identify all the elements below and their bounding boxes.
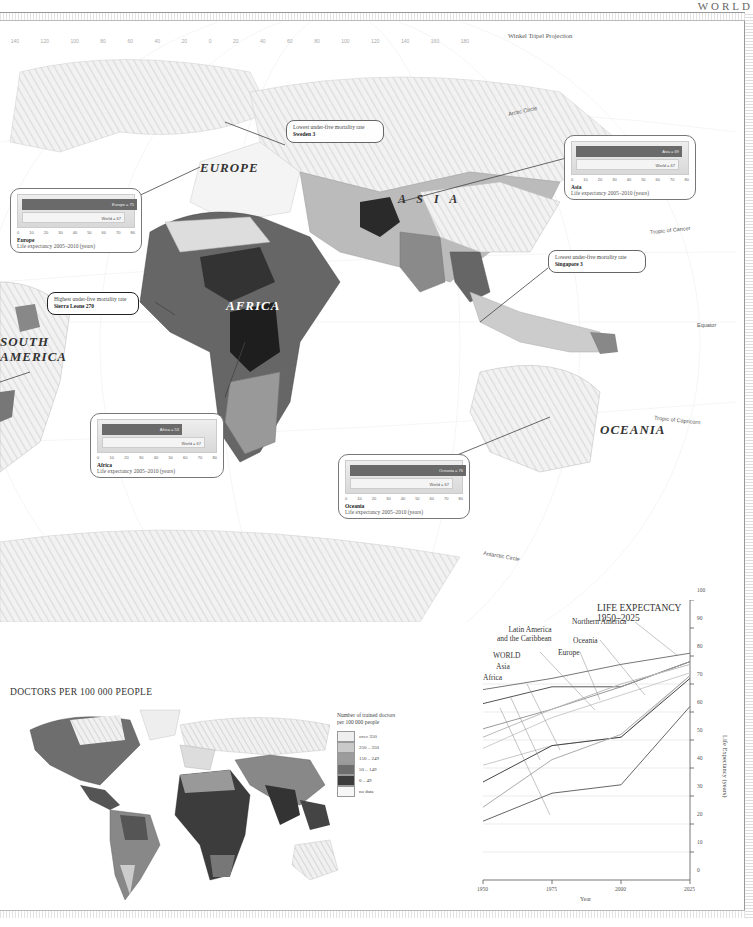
label-line: Latin America: [497, 625, 552, 634]
tick: 10: [110, 455, 114, 460]
y-tick: 80: [697, 632, 705, 660]
life-expectancy-box-oceania: Oceania = 76 World = 67 0102030405060708…: [338, 454, 470, 519]
region-subtitle: Life expectancy 2005–2010 (years): [17, 243, 135, 249]
bar-chart: Asia = 69 World = 67: [571, 141, 689, 175]
legend-label: no data: [359, 789, 374, 794]
world-bar: World = 67: [350, 478, 453, 489]
tick: 0: [17, 230, 19, 235]
lon-label: 120: [371, 38, 379, 44]
x-tick: 1950: [477, 886, 488, 892]
region-bar: Oceania = 76: [350, 465, 466, 476]
region-subtitle: Life expectancy 2005–2010 (years): [345, 509, 463, 515]
lon-label: 40: [260, 38, 266, 44]
life-expectancy-box-africa: Africa = 53 World = 67 01020304050607080…: [90, 413, 224, 478]
tick: 80: [213, 455, 217, 460]
callout-value: Sierra Leone 270: [54, 303, 94, 309]
tick: 30: [58, 230, 62, 235]
tick: 80: [131, 230, 135, 235]
world-bar: World = 67: [576, 159, 679, 170]
y-tick: 20: [697, 800, 705, 828]
lon-label: 20: [233, 38, 239, 44]
x-axis-label: Year: [580, 896, 591, 902]
tick: 0: [97, 455, 99, 460]
tick: 70: [670, 177, 674, 182]
continent-label-europe: EUROPE: [200, 160, 259, 176]
series-label-europe: Europe: [558, 648, 580, 657]
tick: 30: [139, 455, 143, 460]
continent-label-asia: A S I A: [398, 192, 461, 207]
tick: 40: [627, 177, 631, 182]
tick: 70: [444, 496, 448, 501]
legend-label: 150 – 249: [359, 756, 379, 761]
life-expectancy-chart: [470, 600, 750, 910]
series-label-asia: Asia: [496, 662, 510, 671]
x-tick: 2000: [615, 886, 626, 892]
callout-sierra-leone: Highest under-five mortality rate Sierra…: [47, 292, 139, 315]
y-tick: 50: [697, 716, 705, 744]
legend-label: 0 – 49: [359, 778, 372, 783]
life-expectancy-box-asia: Asia = 69 World = 67 01020304050607080 A…: [564, 135, 696, 200]
doctors-map-title: DOCTORS PER 100 000 PEOPLE: [10, 687, 152, 697]
axis-ticks: 01020304050607080: [345, 496, 463, 501]
bar-chart: Europe = 75 World = 67: [17, 194, 135, 228]
tick: 50: [415, 496, 419, 501]
lon-label: 80: [100, 38, 106, 44]
callout-title: Lowest under-five mortality rate: [555, 254, 639, 261]
lon-label: 100: [70, 38, 78, 44]
x-tick: 1975: [546, 886, 557, 892]
doctors-map: [10, 705, 340, 910]
legend-title-line: per 100 000 people: [337, 719, 395, 726]
tick: 10: [29, 230, 33, 235]
continent-label-south-america-1: SOUTH: [0, 334, 49, 350]
page-header: WORLD: [698, 0, 753, 12]
legend-label: 250 – 350: [359, 745, 379, 750]
lon-label: 100: [341, 38, 349, 44]
legend-item: 0 – 49: [337, 775, 395, 786]
tick: 80: [459, 496, 463, 501]
legend-label: over 350: [359, 734, 377, 739]
tick: 60: [430, 496, 434, 501]
y-tick: 30: [697, 772, 705, 800]
legend-swatch: [337, 786, 355, 797]
tick: 20: [44, 230, 48, 235]
longitude-labels: 140 120 100 80 60 40 20 0 20 40 60 80 10…: [0, 38, 480, 44]
legend-title: Number of trained doctors per 100 000 pe…: [337, 712, 395, 726]
tick: 50: [168, 455, 172, 460]
region-subtitle: Life expectancy 2005–2010 (years): [571, 190, 689, 196]
series-label-northern-america: Northern America: [572, 617, 626, 626]
lon-label: 160: [431, 38, 439, 44]
legend-item: 250 – 350: [337, 742, 395, 753]
legend-swatch: [337, 753, 355, 764]
y-tick: 0: [697, 856, 705, 884]
legend-swatch: [337, 742, 355, 753]
map-graphic: [0, 22, 736, 622]
series-label-latin-america: Latin America and the Caribbean: [497, 625, 552, 643]
tick: 60: [102, 230, 106, 235]
y-tick: 10: [697, 828, 705, 856]
callout-sweden: Lowest under-five mortality rate Sweden …: [286, 120, 384, 143]
equator-label: Equator: [697, 322, 716, 328]
y-tick: 100: [697, 576, 705, 604]
legend-swatch: [337, 764, 355, 775]
world-bar: World = 67: [22, 212, 125, 223]
life-expectancy-box-europe: Europe = 75 World = 67 01020304050607080…: [10, 188, 142, 253]
series-label-africa: Africa: [483, 673, 502, 682]
y-tick: 40: [697, 744, 705, 772]
doctors-legend: Number of trained doctors per 100 000 pe…: [337, 712, 395, 797]
tick: 20: [124, 455, 128, 460]
lon-label: 120: [41, 38, 49, 44]
tick: 30: [386, 496, 390, 501]
world-map: 140 120 100 80 60 40 20 0 20 40 60 80 10…: [0, 22, 736, 622]
legend-item: over 350: [337, 731, 395, 742]
callout-title: Lowest under-five mortality rate: [293, 124, 377, 131]
legend-item: 50 – 149: [337, 764, 395, 775]
lon-label: 140: [401, 38, 409, 44]
axis-ticks: 01020304050607080: [17, 230, 135, 235]
lon-label: 20: [182, 38, 188, 44]
callout-title: Highest under-five mortality rate: [54, 296, 132, 303]
continent-label-south-america-2: AMERICA: [0, 349, 67, 365]
bottom-border-strip: [0, 910, 745, 918]
legend-title-line: Number of trained doctors: [337, 712, 395, 719]
lon-label: 80: [314, 38, 320, 44]
y-axis-ticks: 100 90 80 70 60 50 40 30 20 10 0: [697, 576, 705, 884]
